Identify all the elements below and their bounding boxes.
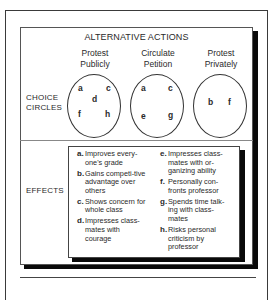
- effect-letter: a: [78, 83, 83, 93]
- effects-box-shadow-bottom: [72, 258, 245, 262]
- effect-letter: d: [92, 94, 97, 104]
- effect-text: Impresses class-mates with courage: [85, 217, 147, 243]
- choice-circle-circulate-petition: a c e g: [130, 74, 184, 138]
- effect-item-h: h. Risks personal criticism by professor: [160, 226, 230, 252]
- effect-item-b: b. Gains competi-tive advantage over oth…: [77, 170, 147, 196]
- action-label-line: Protest: [186, 48, 256, 59]
- effect-key: g.: [160, 198, 168, 224]
- effect-letter: f: [228, 97, 231, 107]
- row-label-choice-circles: CHOICE CIRCLES: [26, 93, 62, 113]
- effect-item-e: e. Impresses class-mates with or-ganizin…: [160, 150, 230, 176]
- effect-text: Shows concern for whole class: [85, 198, 147, 215]
- effect-item-a: a. Improves every-one's grade: [77, 150, 147, 167]
- action-label-circulate-petition: Circulate Petition: [123, 48, 193, 70]
- effect-key: a.: [77, 150, 85, 167]
- effect-letter: f: [78, 109, 81, 119]
- effects-list-left: a. Improves every-one's grade b. Gains c…: [77, 150, 147, 246]
- action-label-line: Petition: [123, 59, 193, 70]
- effect-item-c: c. Shows concern for whole class: [77, 198, 147, 215]
- action-label-line: Publicly: [60, 59, 130, 70]
- effect-text: Risks personal criticism by professor: [168, 226, 230, 252]
- effect-text: Personally con-fronts professor: [168, 178, 230, 195]
- row-label-effects: EFFECTS: [26, 186, 64, 196]
- effect-key: c.: [77, 198, 85, 215]
- action-label-protest-privately: Protest Privately: [186, 48, 256, 70]
- effect-text: Impresses class-mates with or-ganizing a…: [168, 150, 230, 176]
- effect-key: b.: [77, 170, 85, 196]
- section-divider: [20, 140, 253, 141]
- bottom-rule: [20, 277, 256, 278]
- effect-letter: h: [105, 109, 110, 119]
- effect-text: Gains competi-tive advantage over others: [85, 170, 147, 196]
- row-label-line: CHOICE: [26, 93, 62, 103]
- effect-key: f.: [160, 178, 168, 195]
- action-label-protest-publicly: Protest Publicly: [60, 48, 130, 70]
- effect-key: h.: [160, 226, 168, 252]
- choice-circle-protest-publicly: a c d f h: [67, 74, 121, 138]
- effect-letter: c: [106, 83, 111, 93]
- action-label-line: Protest: [60, 48, 130, 59]
- choice-circle-protest-privately: b f: [193, 74, 247, 138]
- diagram-title: ALTERNATIVE ACTIONS: [20, 32, 253, 42]
- main-box-shadow-bottom: [24, 265, 258, 269]
- effect-text: Spends time talk-ing with class-mates: [168, 198, 230, 224]
- effect-item-d: d. Impresses class-mates with courage: [77, 217, 147, 243]
- row-label-line: CIRCLES: [26, 103, 62, 113]
- action-label-line: Circulate: [123, 48, 193, 59]
- effect-letter: e: [141, 111, 146, 121]
- effect-key: d.: [77, 217, 85, 243]
- effect-letter: b: [208, 97, 213, 107]
- effect-letter: g: [168, 110, 173, 120]
- effects-list-right: e. Impresses class-mates with or-ganizin…: [160, 150, 230, 254]
- effects-box-shadow: [240, 150, 245, 262]
- effect-letter: c: [168, 83, 173, 93]
- effect-letter: a: [141, 83, 146, 93]
- effect-text: Improves every-one's grade: [85, 150, 147, 167]
- action-label-line: Privately: [186, 59, 256, 70]
- effect-key: e.: [160, 150, 168, 176]
- effect-item-g: g. Spends time talk-ing with class-mates: [160, 198, 230, 224]
- effect-item-f: f. Personally con-fronts professor: [160, 178, 230, 195]
